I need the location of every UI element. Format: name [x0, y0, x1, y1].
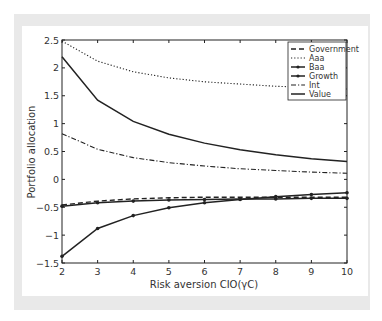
legend-entry: Aaa [309, 54, 324, 63]
y-tick-label: 2.5 [44, 35, 59, 46]
x-tick-label: 9 [308, 266, 314, 277]
x-tick-label: 6 [201, 266, 207, 277]
x-tick-label: 4 [130, 266, 136, 277]
legend-entry: Int [309, 81, 320, 90]
y-tick-label: 0 [53, 174, 59, 185]
y-tick-label: 2 [53, 62, 59, 73]
legend-entry: Value [309, 90, 331, 99]
y-tick-label: −0.5 [36, 202, 59, 213]
y-tick-label: 0.5 [44, 146, 59, 157]
legend-entry: Baa [309, 63, 324, 72]
y-axis-label: Portfolio allocation [26, 106, 37, 199]
x-tick-label: 10 [341, 266, 353, 277]
series-int [62, 134, 347, 174]
x-tick-label: 3 [95, 266, 101, 277]
legend-entry: Government [309, 45, 359, 54]
line-chart: 2345678910−1.5−1−0.500.511.522.5 Governm… [0, 0, 382, 321]
y-tick-label: −1 [45, 230, 59, 241]
x-tick-label: 8 [273, 266, 279, 277]
legend: GovernmentAaaBaaGrowthIntValue [288, 42, 359, 100]
y-tick-label: 1.5 [44, 90, 59, 101]
y-tick-label: −1.5 [36, 258, 59, 269]
x-tick-label: 5 [166, 266, 172, 277]
legend-entry: Growth [309, 72, 338, 81]
x-tick-label: 2 [59, 266, 65, 277]
y-tick-label: 1 [53, 118, 59, 129]
x-tick-label: 7 [237, 266, 243, 277]
x-axis-label: Risk aversion CIO(γC) [150, 279, 258, 290]
